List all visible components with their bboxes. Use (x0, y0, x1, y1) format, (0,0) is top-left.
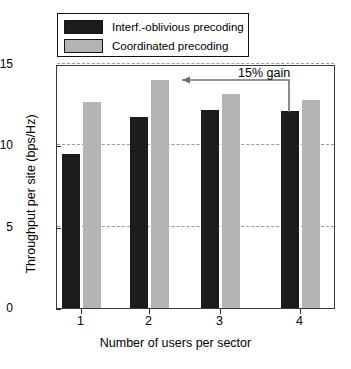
figure: Interf.-oblivious precoding Coordinated … (0, 0, 351, 369)
y-tick-label-0: 0 (6, 302, 13, 314)
gridline-15 (57, 63, 334, 64)
bar-dark-group-1 (62, 154, 80, 308)
y-tick-mark-10 (56, 146, 61, 147)
plot-area (56, 65, 335, 309)
y-tick-label-5: 5 (6, 221, 13, 233)
bar-dark-group-4 (281, 111, 299, 308)
bar-light-group-2 (151, 80, 169, 308)
y-tick-label-10: 10 (0, 139, 13, 151)
y-tick-mark-0 (56, 309, 61, 310)
bar-dark-group-3 (201, 110, 219, 308)
x-tick-label-2: 2 (129, 314, 169, 328)
legend-item-coordinated: Coordinated precoding (64, 37, 242, 55)
bar-light-group-3 (222, 94, 240, 308)
y-tick-label-15: 15 (0, 58, 13, 70)
x-tick-label-3: 3 (200, 314, 240, 328)
x-tick-mark-4 (300, 309, 301, 314)
bar-light-group-4 (302, 100, 320, 308)
bar-group-container (57, 66, 334, 308)
x-tick-mark-1 (81, 309, 82, 314)
legend-label-coordinated: Coordinated precoding (112, 40, 228, 52)
legend-item-interf-oblivious: Interf.-oblivious precoding (64, 18, 242, 36)
bar-dark-group-2 (130, 117, 148, 308)
bar-light-group-1 (83, 102, 101, 308)
x-tick-label-4: 4 (280, 314, 320, 328)
legend-label-interf-oblivious: Interf.-oblivious precoding (112, 21, 244, 33)
x-axis-label: Number of users per sector (0, 336, 351, 350)
x-tick-mark-3 (220, 309, 221, 314)
legend-swatch-dark-icon (64, 20, 103, 34)
x-tick-label-1: 1 (61, 314, 101, 328)
y-tick-mark-5 (56, 228, 61, 229)
chart-legend: Interf.-oblivious precoding Coordinated … (57, 13, 249, 57)
x-tick-mark-2 (149, 309, 150, 314)
y-axis-label: Throughput per site (bps/Hz) (24, 89, 38, 299)
legend-swatch-light-icon (64, 39, 103, 53)
annotation-label: 15% gain (238, 66, 290, 80)
y-tick-mark-15 (56, 65, 61, 66)
